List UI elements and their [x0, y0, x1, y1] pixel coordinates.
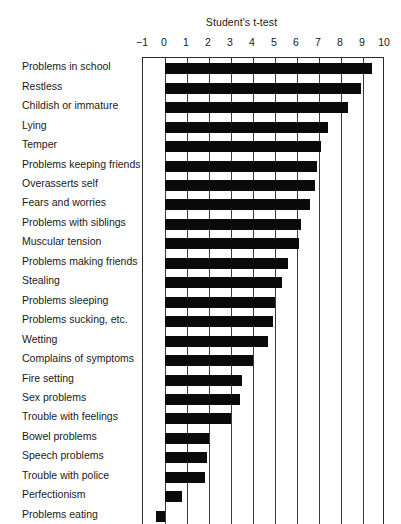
x-tick-label: 6 [293, 36, 299, 48]
y-axis-label: Wetting [0, 334, 138, 345]
y-axis-label: Speech problems [0, 450, 138, 461]
bar-series [143, 58, 383, 524]
y-axis-label: Restless [0, 81, 138, 92]
y-axis-label: Problems keeping friends [0, 159, 138, 170]
bar [165, 336, 268, 347]
x-tick-label: 7 [315, 36, 321, 48]
bar [165, 238, 299, 249]
x-tick-label: 2 [205, 36, 211, 48]
y-axis-label: Temper [0, 139, 138, 150]
plot-area [142, 57, 384, 524]
y-axis-label: Muscular tension [0, 236, 138, 247]
y-axis-label: Trouble with police [0, 470, 138, 481]
bar [165, 452, 207, 463]
y-axis-label: Bowel problems [0, 431, 138, 442]
x-tick-label: 3 [227, 36, 233, 48]
y-axis-label: Problems in school [0, 61, 138, 72]
y-axis-label: Trouble with feelings [0, 411, 138, 422]
x-tick-label: 1 [183, 36, 189, 48]
bar [165, 199, 310, 210]
x-tick-label: 9 [359, 36, 365, 48]
bar [165, 122, 328, 133]
y-axis-label: Overasserts self [0, 178, 138, 189]
bar [165, 258, 288, 269]
y-axis-label: Problems with siblings [0, 217, 138, 228]
bar [165, 316, 273, 327]
bar [165, 83, 361, 94]
bar [165, 375, 242, 386]
bar [156, 511, 165, 522]
y-axis-label: Problems sleeping [0, 295, 138, 306]
bar [165, 491, 182, 502]
bar [165, 472, 205, 483]
bar [165, 141, 321, 152]
y-axis-label: Problems sucking, etc. [0, 314, 138, 325]
y-axis-label: Complains of symptoms [0, 353, 138, 364]
y-axis-label: Perfectionism [0, 489, 138, 500]
y-axis-label: Fears and worries [0, 197, 138, 208]
bar [165, 161, 317, 172]
y-axis-label: Problems making friends [0, 256, 138, 267]
x-tick-label: 8 [337, 36, 343, 48]
bar [165, 63, 372, 74]
chart-title: Student's t-test [41, 16, 401, 28]
x-tick-label: 0 [161, 36, 167, 48]
bar [165, 394, 240, 405]
x-axis-tick-labels: −1012345678910 [0, 36, 401, 52]
x-tick-label: 5 [271, 36, 277, 48]
bar [165, 413, 231, 424]
x-tick-label: 10 [378, 36, 390, 48]
y-axis-label: Stealing [0, 275, 138, 286]
y-axis-label: Problems eating [0, 509, 138, 520]
y-axis-category-labels: Problems in schoolRestlessChildish or im… [0, 57, 138, 524]
bar [165, 277, 282, 288]
y-axis-label: Childish or immature [0, 100, 138, 111]
bar [165, 355, 253, 366]
bar [165, 433, 209, 444]
student-t-test-bar-chart: Student's t-test −1012345678910 Problems… [0, 0, 401, 524]
bar [165, 102, 348, 113]
x-tick-label: −1 [136, 36, 148, 48]
bar [165, 180, 315, 191]
y-axis-label: Fire setting [0, 373, 138, 384]
y-axis-label: Sex problems [0, 392, 138, 403]
bar [165, 219, 301, 230]
y-axis-label: Lying [0, 120, 138, 131]
x-tick-label: 4 [249, 36, 255, 48]
bar [165, 297, 275, 308]
